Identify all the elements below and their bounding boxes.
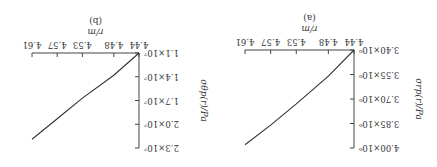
x-tick-label: 4.57 [48,40,67,50]
data-curve [245,50,354,145]
panel-label: (a) [303,13,315,23]
x-tick-label: 4.53 [73,40,92,50]
figure-canvas: 4.444.484.534.574.613.40×10⁶3.55×10⁶3.70… [0,0,437,167]
y-axis-label: σθp(r)/Pa [199,79,209,122]
y-tick-label: 1.4×10⁷ [143,72,178,82]
y-tick-label: 4.00×10⁶ [358,143,399,153]
x-tick-label: 4.48 [104,40,123,50]
panel-label: (b) [89,16,102,26]
data-curve [32,53,139,139]
x-tick-label: 4.53 [287,37,306,47]
x-axis-label: r/m [88,27,104,37]
x-axis-label: r/m [302,24,318,34]
y-tick-label: 2.3×10⁷ [143,143,178,153]
figure: 4.444.484.534.574.613.40×10⁶3.55×10⁶3.70… [0,0,437,167]
x-tick-label: 4.61 [23,40,42,50]
y-tick-label: 3.70×10⁶ [358,94,399,104]
y-tick-label: 1.7×10⁷ [143,96,178,106]
x-tick-label: 4.48 [319,37,338,47]
x-tick-label: 4.57 [261,37,280,47]
x-tick-label: 4.61 [236,37,255,47]
chart-panel-a: 4.444.484.534.574.613.40×10⁶3.55×10⁶3.70… [236,13,424,153]
chart-panel-b: 4.444.484.534.574.611.1×10⁷1.4×10⁷1.7×10… [23,16,209,153]
y-tick-label: 3.85×10⁶ [358,119,399,129]
y-axis-label: σrp(r)/Pa [414,78,424,120]
y-tick-label: 3.55×10⁶ [358,70,399,80]
y-tick-label: 1.1×10⁷ [143,48,178,58]
y-tick-label: 2.0×10⁷ [143,119,178,129]
y-tick-label: 3.40×10⁶ [358,45,399,55]
